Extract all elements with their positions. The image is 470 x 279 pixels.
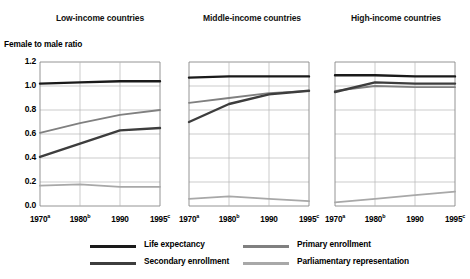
x-tick-1995-panel-2: 1995c (299, 215, 319, 224)
legend-swatch-life-expectancy (90, 245, 136, 248)
series-parliamentary-representation-panel-3 (335, 192, 455, 203)
x-tick-1990-panel-1: 1990 (111, 215, 128, 224)
panel-2 (189, 62, 309, 206)
series-parliamentary-representation-panel-2 (189, 196, 309, 201)
x-tick-1980-panel-3: 1980b (365, 215, 386, 224)
legend-label-primary-enrollment: Primary enrollment (297, 239, 371, 249)
chart-figure: Low-income countries Middle-income count… (0, 0, 470, 279)
panel-1 (40, 62, 160, 206)
x-tick-1970-panel-3: 1970a (325, 215, 345, 224)
legend-swatch-secondary-enrollment (90, 262, 136, 265)
series-life-expectancy-panel-3 (335, 75, 455, 76)
legend-swatch-primary-enrollment (243, 245, 289, 248)
x-tick-1990-panel-2: 1990 (260, 215, 277, 224)
legend-swatch-parliamentary-representation (243, 262, 289, 265)
chart-legend: Life expectancy Secondary enrollment Pri… (0, 239, 470, 275)
legend-label-parliamentary-representation: Parliamentary representation (297, 256, 409, 266)
x-tick-1970-panel-1: 1970a (30, 215, 50, 224)
x-tick-1995-panel-3: 1995c (445, 215, 465, 224)
panel-3 (335, 62, 455, 206)
legend-label-life-expectancy: Life expectancy (144, 239, 205, 249)
x-tick-1990-panel-3: 1990 (406, 215, 423, 224)
series-secondary-enrollment-panel-1 (40, 128, 160, 157)
series-life-expectancy-panel-2 (189, 76, 309, 77)
x-tick-1970-panel-2: 1970a (179, 215, 199, 224)
x-tick-1995-panel-1: 1995c (150, 215, 170, 224)
x-tick-1980-panel-2: 1980b (219, 215, 240, 224)
plot-area (0, 0, 470, 279)
legend-label-secondary-enrollment: Secondary enrollment (144, 256, 229, 266)
x-tick-1980-panel-1: 1980b (70, 215, 91, 224)
series-parliamentary-representation-panel-1 (40, 184, 160, 186)
series-life-expectancy-panel-1 (40, 81, 160, 83)
